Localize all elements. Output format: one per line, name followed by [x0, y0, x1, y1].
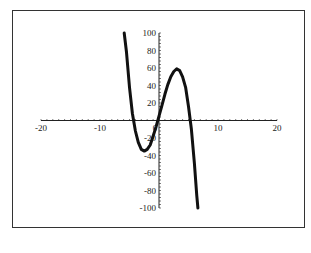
tick-label: 60 — [147, 63, 157, 73]
tick-label: 20 — [147, 98, 157, 108]
tick-label: 80 — [147, 46, 157, 56]
tick-label: -10 — [94, 123, 106, 133]
tick-label: 40 — [147, 81, 157, 91]
tick-label: -80 — [144, 186, 156, 196]
tick-label: -100 — [140, 203, 157, 213]
tick-label: -40 — [144, 151, 156, 161]
tick-label: -20 — [35, 123, 47, 133]
tick-label: 20 — [273, 123, 283, 133]
plot-area: -20-100102010080604020-20-40-60-80-100 — [0, 0, 311, 253]
tick-label: -60 — [144, 168, 156, 178]
tick-label: 100 — [143, 28, 157, 38]
tick-label: 10 — [214, 123, 224, 133]
